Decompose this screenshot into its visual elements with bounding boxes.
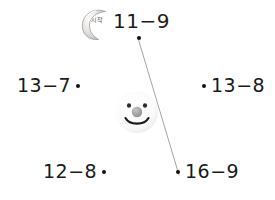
problem-dot[interactable]	[202, 84, 206, 88]
crescent-moon-sticker: 시작	[76, 6, 116, 42]
problem-expression: 13−8	[211, 76, 265, 95]
problem-12-8[interactable]: 12−8	[43, 162, 106, 181]
problem-expression: 13−7	[17, 76, 71, 95]
smiley-left-eye	[127, 103, 131, 108]
problem-dot[interactable]	[102, 170, 106, 174]
problem-expression: 11−9	[113, 11, 170, 31]
problem-expression: 16−9	[185, 162, 239, 181]
crescent-moon-icon	[76, 6, 116, 42]
smiley-nose	[132, 107, 142, 117]
problem-11-9[interactable]: 11−9	[113, 11, 170, 31]
smiley-right-eye	[143, 103, 147, 108]
problem-dot[interactable]	[137, 36, 141, 40]
problem-16-9[interactable]: 16−9	[176, 162, 239, 181]
worksheet-canvas: 시작 11−9	[0, 0, 275, 200]
problem-13-8[interactable]: 13−8	[202, 76, 265, 95]
problem-dot[interactable]	[76, 84, 80, 88]
problem-expression: 12−8	[43, 162, 97, 181]
moon-caption-label: 시작	[91, 17, 103, 23]
problem-13-7[interactable]: 13−7	[17, 76, 80, 95]
problem-dot[interactable]	[176, 170, 180, 174]
smiley-face-icon	[113, 88, 161, 136]
smiley-face-decoration	[113, 88, 161, 136]
